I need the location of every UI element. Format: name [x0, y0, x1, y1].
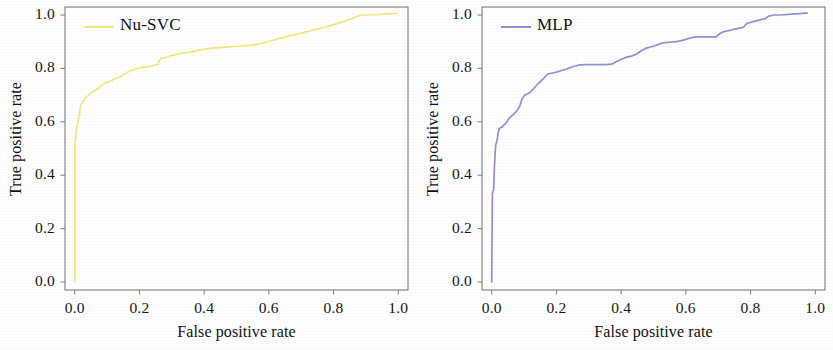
- chart-panel-mlp: 0.00.20.40.60.81.00.00.20.40.60.81.0Fals…: [417, 0, 833, 350]
- plot-area-nu-svc: [0, 0, 416, 350]
- x-axis-tick-label: 0.6: [239, 299, 299, 317]
- x-axis-title: False positive rate: [574, 323, 734, 341]
- x-axis-tick-label: 0.2: [109, 299, 169, 317]
- x-axis-tick-label: 0.6: [656, 299, 716, 317]
- plot-frame: [65, 7, 408, 290]
- y-axis-tick-label: 0.2: [3, 219, 55, 237]
- x-axis-tick-label: 0.0: [45, 299, 105, 317]
- x-axis-tick-label: 0.4: [174, 299, 234, 317]
- chart-panel-nu-svc: 0.00.20.40.60.81.00.00.20.40.60.81.0Fals…: [0, 0, 416, 350]
- x-axis-tick-label: 0.2: [526, 299, 586, 317]
- y-axis-title: True positive rate: [424, 59, 442, 219]
- y-axis-tick-label: 1.0: [420, 5, 472, 23]
- roc-curve-line: [492, 13, 807, 282]
- roc-curve-line: [75, 13, 397, 282]
- y-axis-tick-label: 0.2: [420, 219, 472, 237]
- y-axis-tick-label: 1.0: [3, 5, 55, 23]
- plot-area-mlp: [417, 0, 833, 350]
- plot-frame: [482, 7, 825, 290]
- y-axis-tick-label: 0.0: [420, 272, 472, 290]
- roc-curve-figure: 0.00.20.40.60.81.00.00.20.40.60.81.0Fals…: [0, 0, 833, 350]
- x-axis-tick-label: 0.8: [304, 299, 364, 317]
- y-axis-tick-label: 0.0: [3, 272, 55, 290]
- x-axis-tick-label: 0.4: [591, 299, 651, 317]
- x-axis-tick-label: 0.8: [721, 299, 781, 317]
- x-axis-tick-label: 0.0: [462, 299, 522, 317]
- x-axis-tick-label: 1.0: [785, 299, 833, 317]
- legend-label: MLP: [537, 15, 573, 35]
- y-axis-title: True positive rate: [7, 59, 25, 219]
- x-axis-title: False positive rate: [157, 323, 317, 341]
- legend-label: Nu-SVC: [120, 15, 181, 35]
